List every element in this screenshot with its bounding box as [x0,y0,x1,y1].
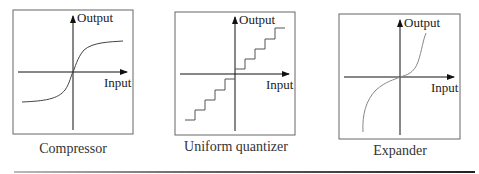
compressor-caption: Compressor [39,141,107,157]
quantizer-caption: Uniform quantizer [184,139,288,155]
quantizer-panel [175,12,295,135]
quantizer-y-axis-label: Output [239,12,275,28]
expander-caption: Expander [373,143,427,159]
expander-curve [363,33,426,132]
quantizer-staircase-negative [185,79,235,120]
expander-y-axis-label: Output [404,15,440,31]
quantizer-staircase-positive [235,28,285,69]
expander-panel [339,14,460,139]
expander-x-axis-label: Input [431,80,458,96]
compressor-panel [13,10,133,134]
quantizer-x-axis-label: Input [266,77,293,93]
compressor-x-axis-label: Input [104,75,131,91]
compressor-y-axis-label: Output [77,10,113,26]
bottom-divider [14,171,475,173]
